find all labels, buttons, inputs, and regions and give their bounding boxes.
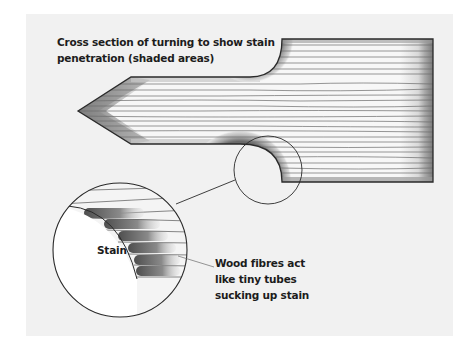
callout-line-3: sucking up stain bbox=[215, 287, 309, 303]
callout-line-2: like tiny tubes bbox=[215, 271, 309, 287]
fibres-callout: Wood fibres act like tiny tubes sucking … bbox=[215, 255, 309, 303]
stain-label: Stain bbox=[97, 242, 127, 258]
diagram-title: Cross section of turning to show stain p… bbox=[57, 34, 275, 66]
title-line-1: Cross section of turning to show stain bbox=[57, 34, 275, 50]
magnifier-connector-line bbox=[176, 180, 235, 204]
title-line-2: penetration (shaded areas) bbox=[57, 50, 275, 66]
callout-line-1: Wood fibres act bbox=[215, 255, 309, 271]
